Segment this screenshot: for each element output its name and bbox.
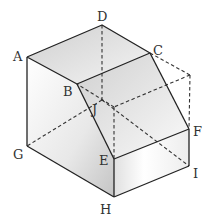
label-A: A bbox=[12, 49, 23, 64]
label-G: G bbox=[13, 147, 23, 162]
label-C: C bbox=[153, 43, 163, 58]
label-D: D bbox=[97, 9, 107, 24]
label-E: E bbox=[99, 153, 109, 168]
label-B: B bbox=[63, 84, 73, 99]
cut-cube-diagram: D A C B J F G E I H bbox=[0, 0, 211, 217]
label-F: F bbox=[193, 124, 202, 139]
label-J: J bbox=[90, 102, 97, 117]
label-H: H bbox=[100, 202, 111, 217]
label-I: I bbox=[193, 166, 198, 181]
